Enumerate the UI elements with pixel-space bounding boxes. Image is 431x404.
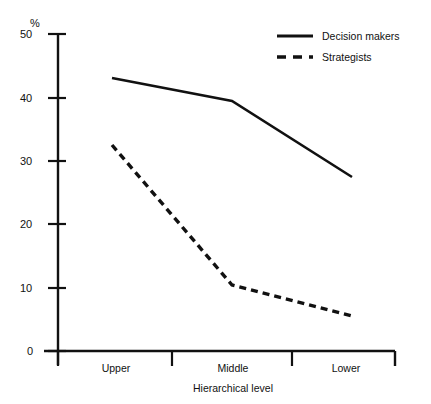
y-tick-label-0: 0 bbox=[27, 345, 33, 357]
legend-label-strategists: Strategists bbox=[322, 51, 372, 63]
y-tick-label-50: 50 bbox=[20, 28, 32, 40]
x-category-label-upper: Upper bbox=[102, 362, 131, 374]
legend: Decision makers Strategists bbox=[277, 30, 400, 63]
line-chart: % 50 40 30 20 10 0 Upper Middle Lower Hi… bbox=[0, 0, 431, 404]
x-category-label-lower: Lower bbox=[332, 362, 361, 374]
legend-label-decision-makers: Decision makers bbox=[322, 30, 400, 42]
y-tick-label-30: 30 bbox=[20, 155, 32, 167]
y-tick-label-20: 20 bbox=[20, 218, 32, 230]
y-tick-label-10: 10 bbox=[20, 282, 32, 294]
chart-canvas: % 50 40 30 20 10 0 Upper Middle Lower Hi… bbox=[0, 0, 431, 404]
series-line-decision-makers bbox=[112, 78, 352, 177]
x-axis-title: Hierarchical level bbox=[193, 382, 273, 394]
y-tick-label-40: 40 bbox=[20, 92, 32, 104]
series-line-strategists bbox=[112, 145, 352, 316]
x-category-label-middle: Middle bbox=[218, 362, 249, 374]
